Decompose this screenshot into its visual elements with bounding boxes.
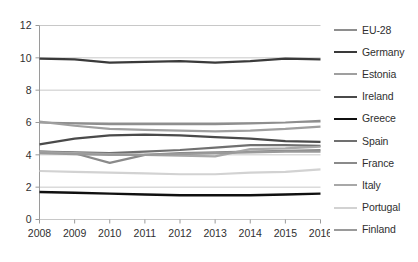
legend-item-greece[interactable]: Greece bbox=[334, 108, 418, 130]
legend-swatch-finland bbox=[334, 229, 357, 231]
legend-item-germany[interactable]: Germany bbox=[334, 41, 418, 63]
chart-legend: EU-28GermanyEstoniaIrelandGreeceSpainFra… bbox=[334, 19, 418, 241]
y-tick-label: 6 bbox=[26, 116, 32, 128]
legend-item-france[interactable]: France bbox=[334, 152, 418, 174]
x-tick-label: 2014 bbox=[239, 227, 263, 239]
legend-swatch-spain bbox=[334, 140, 357, 142]
plot-area: 024681012 200820092010201120122013201420… bbox=[0, 0, 330, 262]
x-tick-label: 2011 bbox=[134, 227, 157, 239]
legend-item-spain[interactable]: Spain bbox=[334, 130, 418, 152]
x-axis-tick-marks bbox=[40, 220, 321, 224]
legend-label-italy: Italy bbox=[362, 180, 381, 191]
series-line-ireland bbox=[40, 135, 321, 145]
y-tick-label: 2 bbox=[26, 181, 32, 193]
legend-label-eu-28: EU-28 bbox=[362, 25, 391, 36]
legend-swatch-eu-28 bbox=[334, 29, 357, 31]
y-axis-tick-labels: 024681012 bbox=[20, 19, 32, 225]
legend-swatch-ireland bbox=[334, 96, 357, 98]
series-lines bbox=[40, 59, 321, 196]
legend-swatch-italy bbox=[334, 184, 357, 186]
axis-lines bbox=[36, 26, 40, 220]
legend-item-italy[interactable]: Italy bbox=[334, 174, 418, 196]
x-tick-label: 2016 bbox=[309, 227, 330, 239]
legend-label-estonia: Estonia bbox=[362, 69, 396, 80]
plot-svg: 024681012 200820092010201120122013201420… bbox=[0, 0, 330, 262]
legend-item-eu-28[interactable]: EU-28 bbox=[334, 19, 418, 41]
legend-label-france: France bbox=[362, 158, 394, 169]
series-line-portugal bbox=[40, 169, 321, 174]
legend-item-finland[interactable]: Finland bbox=[334, 219, 418, 241]
legend-swatch-portugal bbox=[334, 207, 357, 209]
x-tick-label: 2013 bbox=[203, 227, 227, 239]
line-chart: 024681012 200820092010201120122013201420… bbox=[0, 0, 418, 262]
legend-label-greece: Greece bbox=[362, 113, 396, 124]
legend-label-spain: Spain bbox=[362, 136, 388, 147]
x-tick-label: 2015 bbox=[274, 227, 298, 239]
x-tick-label: 2010 bbox=[98, 227, 122, 239]
y-tick-label: 4 bbox=[26, 149, 32, 161]
legend-label-finland: Finland bbox=[362, 224, 396, 235]
series-line-germany bbox=[40, 59, 321, 63]
legend-swatch-estonia bbox=[334, 73, 357, 75]
x-tick-label: 2012 bbox=[168, 227, 192, 239]
y-tick-label: 8 bbox=[26, 84, 32, 96]
legend-item-portugal[interactable]: Portugal bbox=[334, 197, 418, 219]
legend-label-portugal: Portugal bbox=[362, 202, 400, 213]
legend-swatch-germany bbox=[334, 51, 357, 53]
y-tick-label: 10 bbox=[20, 52, 32, 64]
legend-item-estonia[interactable]: Estonia bbox=[334, 63, 418, 85]
x-tick-label: 2008 bbox=[28, 227, 52, 239]
legend-swatch-france bbox=[334, 162, 357, 164]
series-line-greece bbox=[40, 192, 321, 195]
y-tick-label: 0 bbox=[26, 213, 32, 225]
x-axis-tick-labels: 200820092010201120122013201420152016 bbox=[28, 227, 330, 239]
legend-label-ireland: Ireland bbox=[362, 91, 393, 102]
y-tick-label: 12 bbox=[20, 19, 32, 31]
legend-swatch-greece bbox=[334, 118, 357, 120]
legend-label-germany: Germany bbox=[362, 47, 404, 58]
x-tick-label: 2009 bbox=[63, 227, 87, 239]
legend-item-ireland[interactable]: Ireland bbox=[334, 86, 418, 108]
